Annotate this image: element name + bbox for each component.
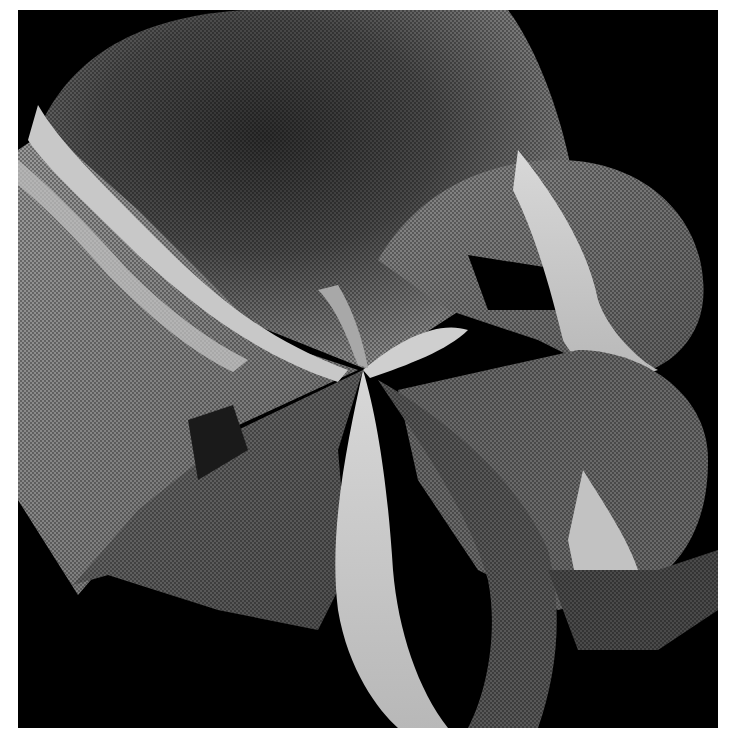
surface-render — [18, 10, 718, 728]
render-canvas — [18, 10, 718, 728]
